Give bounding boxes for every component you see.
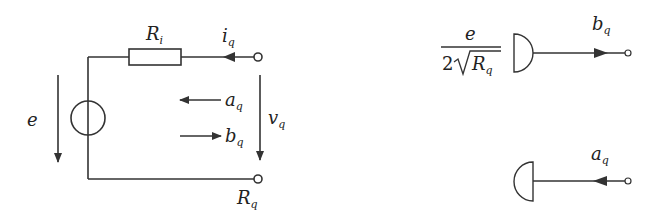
fraction-denominator-sqrt: Rq [471,53,493,77]
fraction-denominator-coef: 2 [442,53,453,74]
label-aq-right: aq [591,143,609,167]
label-vq: vq [268,107,285,131]
input-terminal [625,178,631,184]
output-arrow-icon [594,48,608,58]
wave-source-icon [514,34,533,72]
label-e: e [27,109,38,130]
label-aq: aq [225,89,243,113]
label-bq-right: bq [592,13,611,37]
label-bq: bq [225,125,244,149]
label-ri: Ri [145,23,163,47]
right-diagram: e 2 Rq bq aq [441,13,631,201]
label-iq: iq [222,25,235,49]
label-rq: Rq [236,187,258,211]
terminal-bottom [254,175,262,183]
output-terminal [625,50,631,56]
terminal-top [254,53,262,61]
resistor-ri [129,49,181,65]
current-arrow-icon [223,52,235,62]
input-arrow-icon [593,176,607,186]
left-circuit: Ri iq e aq bq vq Rq [27,23,285,211]
fraction-numerator: e [465,23,476,44]
wave-sink-icon [514,162,533,201]
circuit-diagram: Ri iq e aq bq vq Rq e 2 Rq bq aq [0,0,664,222]
